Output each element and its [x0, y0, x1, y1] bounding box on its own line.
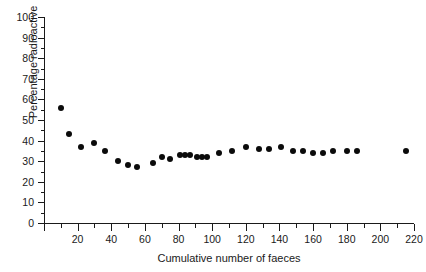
y-tick-label: 100 — [8, 12, 34, 22]
data-point — [300, 148, 306, 154]
y-tick-label: 90 — [8, 33, 34, 43]
scatter-chart: Percentage radioactive Cumulative number… — [0, 0, 426, 272]
data-point — [266, 146, 272, 152]
y-tick-minor — [41, 110, 45, 111]
y-tick-major — [38, 17, 45, 18]
data-point — [216, 150, 222, 156]
y-tick-major — [38, 99, 45, 100]
x-tick-label: 200 — [365, 234, 395, 244]
y-tick-major — [38, 38, 45, 39]
y-tick-minor — [41, 89, 45, 90]
x-tick-major — [78, 224, 79, 231]
x-tick-minor — [364, 224, 365, 228]
y-tick-major — [38, 161, 45, 162]
data-point — [243, 144, 249, 150]
y-tick-major — [38, 120, 45, 121]
x-tick-label: 40 — [96, 234, 126, 244]
data-point — [403, 148, 409, 154]
x-tick-label: 100 — [197, 234, 227, 244]
y-tick-label: 20 — [8, 177, 34, 187]
y-tick-minor — [41, 130, 45, 131]
x-tick-major — [347, 224, 348, 231]
y-tick-minor — [41, 172, 45, 173]
data-point — [330, 148, 336, 154]
x-tick-minor — [195, 224, 196, 228]
data-point — [78, 144, 84, 150]
x-tick-label: 140 — [264, 234, 294, 244]
x-tick-major — [179, 224, 180, 231]
x-tick-minor — [128, 224, 129, 228]
data-point — [159, 154, 165, 160]
x-tick-label: 80 — [164, 234, 194, 244]
data-point — [91, 140, 97, 146]
data-point — [58, 105, 64, 111]
y-tick-label: 30 — [8, 156, 34, 166]
x-tick-label: 120 — [231, 234, 261, 244]
x-tick-label: 160 — [298, 234, 328, 244]
data-point — [256, 146, 262, 152]
data-point — [102, 148, 108, 154]
y-tick-label: 80 — [8, 53, 34, 63]
x-tick-major — [313, 224, 314, 231]
y-tick-major — [38, 202, 45, 203]
x-tick-minor — [94, 224, 95, 228]
data-point — [187, 152, 193, 158]
y-tick-label: 10 — [8, 197, 34, 207]
x-tick-label: 220 — [399, 234, 426, 244]
x-axis-label: Cumulative number of faeces — [44, 252, 414, 264]
data-point — [344, 148, 350, 154]
data-point — [125, 162, 131, 168]
data-point — [134, 164, 140, 170]
x-tick-minor — [162, 224, 163, 228]
y-tick-minor — [41, 213, 45, 214]
data-point — [115, 158, 121, 164]
x-tick-minor — [263, 224, 264, 228]
y-tick-minor — [41, 48, 45, 49]
x-tick-major — [212, 224, 213, 231]
data-point — [310, 150, 316, 156]
y-tick-label: 70 — [8, 74, 34, 84]
x-tick-label: 180 — [332, 234, 362, 244]
x-tick-label: 20 — [63, 234, 93, 244]
y-tick-label: 40 — [8, 136, 34, 146]
y-tick-minor — [41, 151, 45, 152]
data-point — [320, 150, 326, 156]
x-tick-minor — [61, 224, 62, 228]
x-tick-major — [111, 224, 112, 231]
x-tick-major — [414, 224, 415, 231]
y-tick-label: 60 — [8, 94, 34, 104]
y-tick-major — [38, 141, 45, 142]
x-tick-minor — [296, 224, 297, 228]
data-point — [66, 131, 72, 137]
data-point — [167, 156, 173, 162]
y-tick-minor — [41, 192, 45, 193]
y-tick-label: 50 — [8, 115, 34, 125]
data-point — [290, 148, 296, 154]
y-tick-label: 0 — [8, 218, 34, 228]
x-tick-minor — [397, 224, 398, 228]
x-tick-major — [44, 224, 45, 231]
data-point — [229, 148, 235, 154]
data-point — [354, 148, 360, 154]
x-tick-minor — [330, 224, 331, 228]
data-point — [204, 154, 210, 160]
y-tick-major — [38, 79, 45, 80]
y-tick-minor — [41, 69, 45, 70]
x-tick-major — [145, 224, 146, 231]
x-tick-major — [380, 224, 381, 231]
x-tick-label: 60 — [130, 234, 160, 244]
y-tick-minor — [41, 27, 45, 28]
x-tick-major — [279, 224, 280, 231]
x-tick-minor — [229, 224, 230, 228]
y-tick-major — [38, 58, 45, 59]
data-point — [278, 144, 284, 150]
y-tick-major — [38, 182, 45, 183]
data-point — [150, 160, 156, 166]
x-tick-major — [246, 224, 247, 231]
